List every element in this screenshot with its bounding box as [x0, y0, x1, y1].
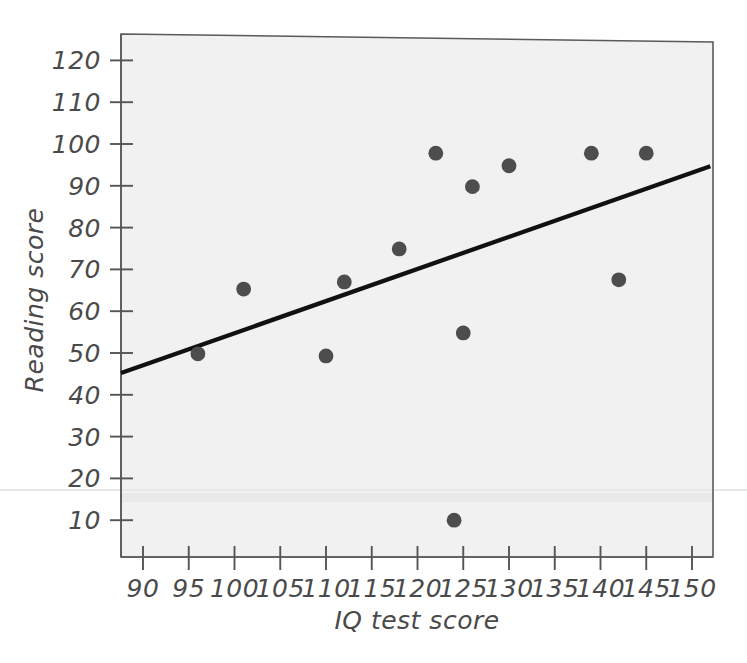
data-point [639, 146, 654, 161]
y-tick-label: 30 [68, 423, 101, 452]
y-tick-label: 120 [52, 46, 101, 75]
x-tick-label: 100 [210, 574, 259, 603]
x-axis-tick-labels: 9095100105110115120125130135140145150 [127, 574, 717, 603]
x-tick-label: 90 [127, 574, 160, 603]
x-axis-title: IQ test score [334, 606, 499, 635]
x-tick-label: 130 [484, 574, 533, 603]
y-tick-label: 20 [68, 464, 101, 493]
scatter-plot-figure: 102030405060708090100110120 909510010511… [0, 0, 747, 663]
y-tick-label: 110 [52, 88, 101, 117]
data-point [319, 349, 334, 364]
y-tick-label: 100 [52, 130, 101, 159]
data-point [447, 513, 462, 528]
plot-area-background [121, 34, 713, 557]
y-tick-label: 70 [68, 255, 101, 284]
scan-artifact-band [0, 489, 747, 491]
data-point [456, 326, 471, 341]
y-axis-tick-labels: 102030405060708090100110120 [52, 46, 101, 535]
x-tick-label: 105 [256, 574, 305, 603]
y-tick-label: 50 [68, 339, 101, 368]
y-tick-label: 90 [68, 172, 101, 201]
data-point [428, 146, 443, 161]
y-tick-label: 40 [68, 381, 101, 410]
x-tick-label: 120 [393, 574, 442, 603]
scan-artifact-band-2 [121, 493, 713, 502]
data-point [392, 242, 407, 257]
x-tick-label: 145 [622, 574, 671, 603]
data-point [611, 272, 626, 287]
x-tick-label: 150 [667, 574, 716, 603]
chart-canvas: 102030405060708090100110120 909510010511… [0, 0, 747, 663]
x-tick-label: 125 [439, 574, 488, 603]
x-tick-label: 115 [347, 574, 396, 603]
data-point [502, 158, 517, 173]
data-point [465, 179, 480, 194]
data-point [584, 146, 599, 161]
y-tick-label: 10 [68, 506, 101, 535]
x-tick-label: 110 [301, 574, 350, 603]
x-tick-label: 135 [530, 574, 579, 603]
y-tick-label: 60 [68, 297, 101, 326]
data-point [337, 275, 352, 290]
x-tick-label: 140 [576, 574, 625, 603]
data-point [236, 282, 251, 297]
y-axis-title: Reading score [20, 208, 49, 393]
x-tick-label: 95 [172, 574, 205, 603]
data-point [191, 346, 206, 361]
y-tick-label: 80 [68, 214, 101, 243]
